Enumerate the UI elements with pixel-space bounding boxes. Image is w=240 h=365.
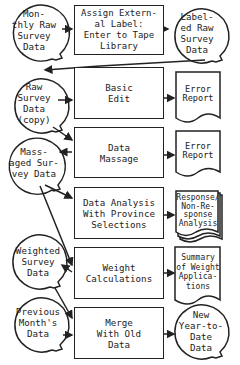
process-basic-edit: Basic Edit bbox=[74, 67, 164, 119]
process-weight-calculations: Weight Calculations bbox=[74, 247, 164, 299]
node-massaged-survey-data: Mass- aged Sur- vey Data bbox=[8, 138, 60, 186]
process-assign-external-label: Assign Extern- al Label: Enter to Tape L… bbox=[74, 5, 164, 55]
doc-summary-weight-applications: Summary of Weight Applica- tions bbox=[175, 250, 221, 294]
node-new-year-to-date-data: New Year-to- Date Data bbox=[175, 307, 227, 355]
process-merge-with-old-data: Merge With Old Data bbox=[74, 307, 164, 359]
process-data-massage: Data Massage bbox=[74, 127, 164, 178]
node-previous-months-data: Previous Month's Data bbox=[12, 298, 64, 346]
node-weighted-survey-data: Weighted Survey Data bbox=[12, 237, 64, 285]
process-data-analysis-province: Data Analysis With Province Selections bbox=[74, 187, 164, 239]
doc-response-nonresponse-analysis: Response/ Non-Re- sponse Analysis bbox=[176, 192, 220, 230]
node-labeled-raw-survey-data: Label- ed Raw Survey Data bbox=[170, 8, 224, 58]
doc-error-report-2: Error Report bbox=[176, 134, 220, 168]
doc-error-report-1: Error Report bbox=[176, 76, 220, 112]
node-raw-survey-data-copy: Raw Survey Data (copy) bbox=[8, 79, 60, 127]
node-monthly-raw-survey-data: Mon- thly Raw Survey Data bbox=[8, 5, 60, 55]
